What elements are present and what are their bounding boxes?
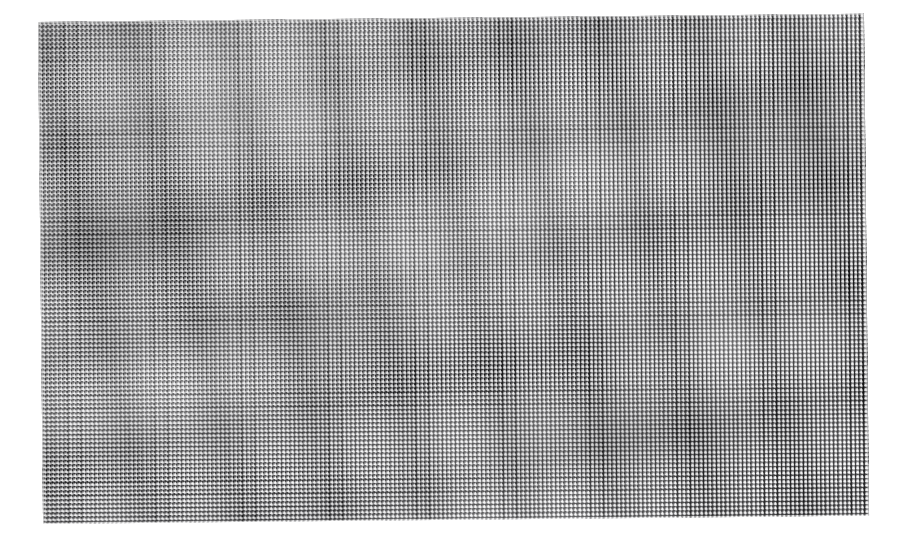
wire-mesh-sheet (38, 14, 869, 524)
mesh-thread-crossings (38, 14, 869, 524)
image-canvas (0, 0, 898, 553)
